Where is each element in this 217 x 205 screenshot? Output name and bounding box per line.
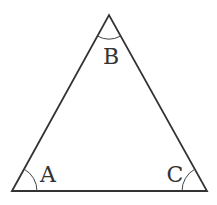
angle-arc-c [182,169,195,191]
vertex-label-a: A [39,162,57,187]
angle-arc-a [24,169,37,191]
vertex-label-c: C [167,162,184,187]
triangle-diagram: A B C [0,0,217,205]
angle-arc-b [97,36,120,39]
vertex-label-b: B [103,44,119,69]
triangle-svg: A B C [0,0,217,205]
